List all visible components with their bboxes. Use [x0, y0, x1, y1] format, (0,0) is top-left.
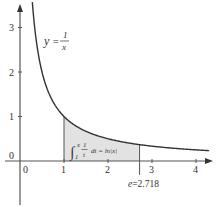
curve-label-numerator: 1 — [63, 30, 68, 40]
x-tick-label-2: 2 — [105, 164, 110, 175]
integral-right-text: dt = ln|x| — [91, 147, 117, 155]
reciprocal-function-chart: 012340123 y = 1 x ∫ x 1 1 t dt = ln|x| e… — [0, 0, 217, 207]
y-tick-label-0: 0 — [9, 150, 14, 161]
curve-label-equals: = — [52, 35, 59, 47]
curve-label-y: y — [43, 34, 50, 48]
integrand-numerator: 1 — [83, 141, 87, 149]
curve-label: y = 1 x — [43, 30, 69, 52]
x-tick-label-0: 0 — [23, 164, 28, 175]
x-axis-arrow-icon — [205, 158, 213, 164]
integral-lower-limit: 1 — [75, 153, 78, 160]
x-tick-label-4: 4 — [193, 164, 198, 175]
y-tick-label-2: 2 — [9, 67, 14, 78]
e-value-label: e=2.718 — [128, 179, 159, 189]
y-tick-label-3: 3 — [9, 22, 14, 33]
x-tick-label-1: 1 — [61, 164, 66, 175]
curve-label-denominator: x — [61, 42, 66, 52]
integral-upper-limit: x — [76, 141, 80, 148]
curve-1-over-x — [32, 2, 209, 151]
chart-root: 012340123 y = 1 x ∫ x 1 1 t dt = ln|x| e… — [0, 0, 217, 207]
y-tick-label-1: 1 — [9, 111, 14, 122]
x-tick-label-3: 3 — [149, 164, 154, 175]
y-axis-arrow-icon — [17, 4, 23, 12]
